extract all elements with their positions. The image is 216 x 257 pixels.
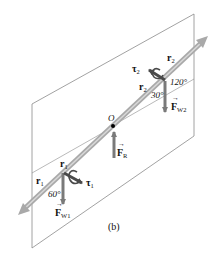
angle-120-label: 120° bbox=[170, 77, 188, 87]
torque-tau1-label: τ1 bbox=[86, 177, 94, 189]
torque-diagram: O FR → FW2 → τ2 r2 r2 120° 30° FW1 → τ1 … bbox=[0, 0, 216, 257]
force-fw2-label: FW2 bbox=[171, 101, 187, 113]
torque-tau2-label: τ2 bbox=[132, 63, 140, 75]
diagram-canvas: O FR → FW2 → τ2 r2 r2 120° 30° FW1 → τ1 … bbox=[0, 0, 216, 257]
force-fw1-label: FW1 bbox=[55, 207, 71, 219]
pivot-point bbox=[111, 124, 115, 128]
force-fr-label: FR bbox=[117, 147, 128, 159]
vec-arrow-fr: → bbox=[118, 140, 125, 148]
origin-label: O bbox=[108, 113, 115, 123]
r2-upper-label: r2 bbox=[167, 52, 175, 64]
r1-upper-label: r1 bbox=[60, 158, 68, 170]
vec-arrow-fw2: → bbox=[172, 94, 179, 102]
r1-left-label: r1 bbox=[36, 175, 44, 187]
angle-60-label: 60° bbox=[48, 189, 61, 199]
vec-arrow-fw1: → bbox=[56, 200, 63, 208]
r2-lower-label: r2 bbox=[139, 81, 147, 93]
figure-caption: (b) bbox=[108, 221, 120, 233]
angle-30-label: 30° bbox=[150, 90, 164, 100]
